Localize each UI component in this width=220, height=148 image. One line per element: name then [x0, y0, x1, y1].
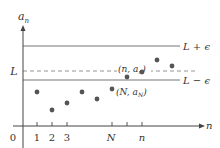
tick-label-3: 3: [64, 132, 70, 143]
tick-label-n: n: [139, 132, 145, 143]
upper-bound-label: L + ϵ: [182, 41, 210, 52]
sequence-limit-diagram: 0 1 2 3 N n an n L L + ϵ L − ϵ (n, an) (…: [0, 0, 220, 148]
tick-label-N: N: [106, 132, 117, 143]
sequence-point-3: [65, 101, 70, 106]
y-axis-arrow-icon: [21, 25, 26, 31]
origin-label: 0: [10, 132, 16, 143]
sequence-points: [35, 58, 175, 113]
tick-label-1: 1: [34, 132, 40, 143]
sequence-point-1: [35, 90, 40, 95]
lower-bound-label: L − ϵ: [182, 75, 210, 86]
point-N-annotation: (N, aN): [116, 87, 147, 98]
x-ticks: [37, 122, 142, 126]
sequence-point-5: [95, 97, 100, 102]
y-axis-label: an: [18, 10, 30, 25]
x-axis-label: n: [206, 120, 212, 131]
sequence-point-4: [80, 90, 85, 95]
sequence-point-2: [50, 108, 55, 113]
limit-label: L: [9, 65, 17, 78]
x-axis-arrow-icon: [199, 124, 205, 129]
sequence-point-9: [155, 58, 160, 63]
sequence-point-7: [125, 75, 130, 80]
sequence-point-n: [140, 70, 145, 75]
sequence-point-N: [110, 87, 115, 92]
sequence-point-10: [170, 64, 175, 69]
tick-label-2: 2: [49, 132, 55, 143]
